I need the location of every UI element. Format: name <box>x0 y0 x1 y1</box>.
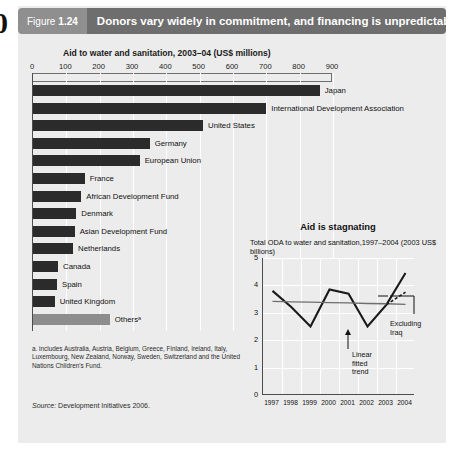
footnote: a. includes Australia, Austria, Belgium,… <box>32 345 247 370</box>
bar-chart-title: Aid to water and sanitation, 2003–04 (US… <box>63 48 271 58</box>
figure-page: 0 Figure 1.24 Donors vary widely in comm… <box>0 0 452 449</box>
bar <box>33 226 75 237</box>
bar-x-tick: 700 <box>259 62 272 71</box>
bar-label: Othersᵃ <box>115 315 141 324</box>
inset-x-tick: 2004 <box>397 399 412 406</box>
bar <box>33 279 57 290</box>
bar-row: European Union <box>33 155 333 166</box>
inset-x-tick: 2000 <box>321 399 336 406</box>
bar-x-tick: 300 <box>126 62 139 71</box>
figure-label: Figure <box>27 16 55 27</box>
bar-label: Asian Development Fund <box>80 227 168 236</box>
annotation-excluding-iraq: Excluding Iraq <box>390 320 421 337</box>
bar-label: United Kingdom <box>60 297 115 306</box>
inset-y-tick: 1 <box>244 363 258 372</box>
inset-x-tick: 2002 <box>359 399 374 406</box>
bar-label: Netherlands <box>78 244 120 253</box>
inset-x-tick: 2001 <box>340 399 355 406</box>
bar-label: United States <box>208 121 255 130</box>
bar-row: Denmark <box>33 208 333 219</box>
bar-label: Canada <box>63 262 90 271</box>
inset-y-tick: 5 <box>244 253 258 262</box>
bar-x-tick: 800 <box>292 62 305 71</box>
bar <box>33 103 266 114</box>
annotation-linear-trend-line3: trend <box>352 368 372 377</box>
bar <box>33 120 203 131</box>
annotation-linear-trend: Linear fitted trend <box>352 351 372 377</box>
inset-y-tick: 0 <box>244 390 258 399</box>
bar-x-tick: 0 <box>30 62 34 71</box>
bar-row: Germany <box>33 138 333 149</box>
figure-label-block: Figure 1.24 <box>18 8 87 34</box>
inset-x-tick: 1997 <box>264 399 279 406</box>
source-label: Source: <box>32 402 56 409</box>
figure-title: Donors vary widely in commitment, and fi… <box>87 8 446 34</box>
bar-row: France <box>33 173 333 184</box>
bar-label: Spain <box>62 280 82 289</box>
bar-row: Japan <box>33 85 333 96</box>
inset-y-tick: 3 <box>244 308 258 317</box>
bar-x-tick: 900 <box>326 62 339 71</box>
bar-label: Germany <box>155 139 187 148</box>
figure-number: 1.24 <box>58 16 77 27</box>
source-text: Development Initiatives 2006. <box>58 402 150 409</box>
bar-x-tick: 600 <box>226 62 239 71</box>
bar <box>33 85 320 96</box>
inset-x-tick: 2003 <box>378 399 393 406</box>
bar <box>33 155 140 166</box>
figure-header: Figure 1.24 Donors vary widely in commit… <box>18 8 446 34</box>
bar-x-tick: 100 <box>59 62 72 71</box>
bar <box>33 261 58 272</box>
bar <box>33 138 150 149</box>
inset-x-tick: 1999 <box>302 399 317 406</box>
bar <box>33 314 110 325</box>
inset-y-tick: 4 <box>244 280 258 289</box>
bar-row: African Development Fund <box>33 191 333 202</box>
bar-row: International Development Association <box>33 103 333 114</box>
bar-label: International Development Association <box>271 104 404 113</box>
bar <box>33 296 55 307</box>
bar <box>33 208 76 219</box>
inset-chart-subtitle: Total ODA to water and sanitation,1997–2… <box>250 238 440 256</box>
bar-label: Denmark <box>81 209 113 218</box>
inset-series-line <box>273 273 406 326</box>
bar-label: African Development Fund <box>86 192 178 201</box>
inset-x-tick: 1998 <box>283 399 298 406</box>
annotation-excluding-iraq-line2: Iraq <box>390 329 421 338</box>
source-line: Source: Development Initiatives 2006. <box>32 402 150 409</box>
bar-label: European Union <box>145 156 201 165</box>
bar <box>33 173 85 184</box>
bar-label: Japan <box>325 86 346 95</box>
bar-x-axis-ticks: 0100200300400500600700800900 <box>32 62 332 73</box>
bar-label: France <box>90 174 114 183</box>
bar-x-tick: 200 <box>92 62 105 71</box>
inset-series-line <box>273 301 406 304</box>
bar <box>33 191 81 202</box>
bar-row: United States <box>33 120 333 131</box>
page-number: 0 <box>0 6 7 40</box>
bar-x-tick: 500 <box>192 62 205 71</box>
inset-y-tick: 2 <box>244 335 258 344</box>
bar-row: Asian Development Fund <box>33 226 333 237</box>
axis-cap-row <box>33 73 332 82</box>
inset-chart-title: Aid is stagnating <box>300 221 376 232</box>
bar <box>33 243 73 254</box>
bar-x-tick: 400 <box>159 62 172 71</box>
